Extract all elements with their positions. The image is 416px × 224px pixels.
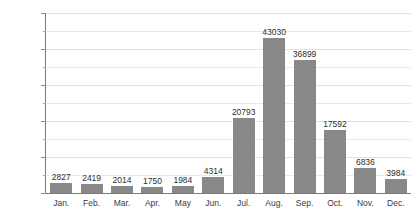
bar-item[interactable]: 2419 (81, 13, 103, 193)
bar-value-label: 2419 (82, 174, 101, 183)
y-axis-tick-minor (43, 31, 46, 32)
bar[interactable] (202, 177, 224, 193)
bar-value-label: 6836 (356, 158, 375, 167)
bar[interactable] (354, 168, 376, 193)
bar[interactable] (111, 186, 133, 193)
x-axis-tick-label: Jan. (46, 198, 76, 208)
bar-item[interactable]: 2014 (111, 13, 133, 193)
x-axis-tick-label: Apr. (137, 198, 167, 208)
y-axis-tick-major (41, 157, 46, 158)
bar[interactable] (385, 179, 407, 193)
bar[interactable] (50, 183, 72, 193)
bar-item[interactable]: 17592 (324, 13, 346, 193)
bar[interactable] (324, 130, 346, 193)
bar[interactable] (141, 187, 163, 193)
bar-item[interactable]: 43030 (263, 13, 285, 193)
y-axis-tick-major (41, 13, 46, 14)
bar-item[interactable]: 2827 (50, 13, 72, 193)
y-axis-tick-minor (43, 103, 46, 104)
bar-value-label: 20793 (232, 108, 256, 117)
bar-value-label: 36899 (293, 50, 317, 59)
bar[interactable] (81, 184, 103, 193)
y-axis-tick-minor (43, 139, 46, 140)
x-axis-tick-label: Feb. (76, 198, 106, 208)
bar-item[interactable]: 6836 (354, 13, 376, 193)
bar-item[interactable]: 3984 (385, 13, 407, 193)
bar-value-label: 3984 (386, 169, 405, 178)
bar-item[interactable]: 1984 (172, 13, 194, 193)
x-axis-tick-label: Sep. (289, 198, 319, 208)
y-axis-tick-major (41, 193, 46, 194)
y-axis-tick-minor (43, 67, 46, 68)
x-axis-tick-label: Nov. (350, 198, 380, 208)
bar-value-label: 2014 (113, 176, 132, 185)
bar-value-label: 43030 (262, 28, 286, 37)
x-axis-tick-label: Aug. (259, 198, 289, 208)
bar[interactable] (294, 60, 316, 193)
bar-value-label: 2827 (52, 173, 71, 182)
y-axis-tick-minor (43, 175, 46, 176)
bar-value-label: 17592 (323, 120, 347, 129)
bar-value-label: 1984 (173, 176, 192, 185)
x-axis-line (45, 193, 411, 194)
x-axis-tick-label: Dec. (381, 198, 411, 208)
bar[interactable] (263, 38, 285, 193)
bar[interactable] (233, 118, 255, 193)
y-axis-tick-major (41, 121, 46, 122)
bar-chart: 50000400003000020000100000 2827241920141… (0, 0, 416, 224)
bar-item[interactable]: 20793 (233, 13, 255, 193)
x-axis-tick-label: Oct. (320, 198, 350, 208)
x-axis-tick-label: Jul. (229, 198, 259, 208)
y-axis-tick-major (41, 85, 46, 86)
bar-value-label: 4314 (204, 167, 223, 176)
x-axis-tick-label: May (168, 198, 198, 208)
bar[interactable] (172, 186, 194, 193)
bar-item[interactable]: 4314 (202, 13, 224, 193)
x-axis-tick-label: Jun. (198, 198, 228, 208)
bar-value-label: 1750 (143, 177, 162, 186)
bar-item[interactable]: 36899 (294, 13, 316, 193)
y-axis-tick-major (41, 49, 46, 50)
x-axis-tick-label: Mar. (107, 198, 137, 208)
bar-item[interactable]: 1750 (141, 13, 163, 193)
